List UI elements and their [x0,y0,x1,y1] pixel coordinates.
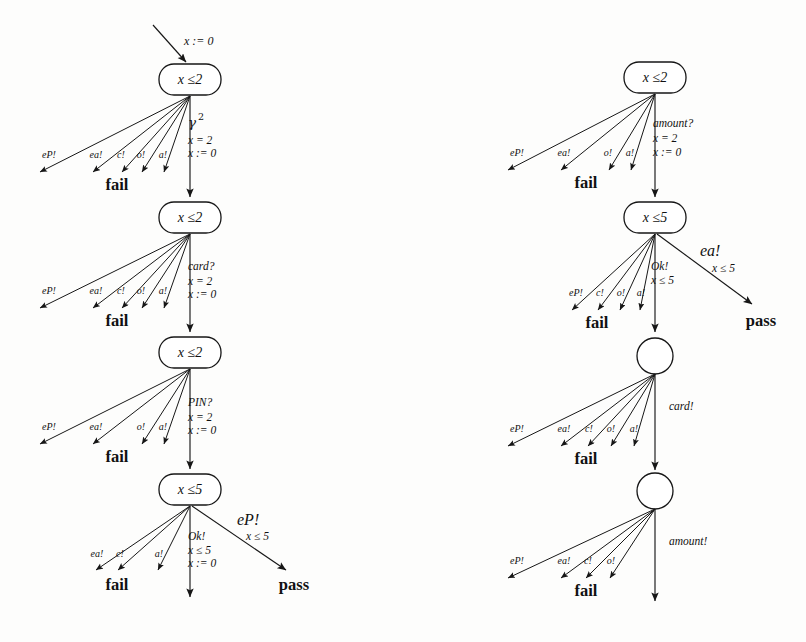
node-R1-label: x ≤2 [642,70,667,85]
fan-edge [122,96,190,172]
terminal-fail: fail [106,311,129,330]
fan-edge [158,506,190,570]
fan-label-a: a! [159,149,167,160]
fan-edge [508,94,655,170]
guard-label: x ≤ 5 [650,274,674,286]
fan-label-eP: eP! [510,423,524,434]
fan-label-eP: eP! [510,555,524,566]
guard-label: x = 2 [652,132,678,144]
terminal-pass: pass [279,575,310,594]
assign-label: x := 0 [187,288,216,300]
fan-label-ea: ea! [558,423,571,434]
fan-label-a: a! [159,285,167,296]
fan-label-ea: ea! [90,149,103,160]
terminal-fail: fail [106,447,129,466]
fan-edge [93,369,190,444]
action-label: card? [188,260,215,272]
terminal-fail: fail [106,575,129,594]
action-label: amount! [669,535,708,547]
fan-label-o: o! [137,149,145,160]
action-label: Ok! [651,260,668,272]
node-L3-label: x ≤2 [177,345,202,360]
automata-diagram: x := 0 x ≤2 eP! ea! c! o! a! fail γ 2 x … [0,0,806,642]
fan-label-a: a! [626,147,634,158]
fan-label-eP: eP! [42,421,56,432]
node-L1-label: x ≤2 [177,72,202,87]
fan-edge [93,96,190,172]
node-L4-label: x ≤5 [177,482,202,497]
fan-edge [96,506,190,570]
terminal-fail: fail [106,175,129,194]
fan-label-o: o! [607,423,615,434]
action-label: card! [669,400,694,412]
fan-label-eP: eP! [42,285,56,296]
terminal-pass: pass [746,311,777,330]
right-test-tree: x ≤2 eP! ea! o! a! fail amount? x = 2 x … [508,62,777,601]
initial-edge-label: x := 0 [183,34,213,48]
fan-edge [631,94,655,170]
assign-label: x := 0 [652,146,681,158]
fan-edge [118,506,190,570]
guard-label: x = 2 [187,275,213,287]
action-label: amount? [653,117,694,129]
fan-label-c: c! [116,548,124,559]
fan-label-o: o! [137,285,145,296]
fan-edge [620,234,655,310]
pass-edge-guard: x ≤ 5 [245,530,269,542]
fan-edge [142,369,190,444]
fan-label-ea: ea! [90,421,103,432]
node-R3[interactable] [637,338,673,374]
fan-edge [142,96,190,172]
fan-label-c: c! [117,149,125,160]
fan-label-c: c! [584,555,592,566]
node-R4[interactable] [637,473,673,509]
fan-label-o: o! [604,147,612,158]
initial-edge [153,25,186,62]
fan-label-o: o! [137,421,145,432]
fan-edge [122,234,190,308]
fan-edge [93,234,190,308]
fan-edge [142,234,190,308]
fan-label-c: c! [585,423,593,434]
guard-label: x = 2 [187,411,213,423]
fan-label-o: o! [617,287,625,298]
terminal-fail: fail [575,449,598,468]
fan-label-ea: ea! [90,285,103,296]
fan-label-c: c! [117,285,125,296]
node-R2-label: x ≤5 [642,210,667,225]
terminal-fail: fail [575,173,598,192]
terminal-fail: fail [575,581,598,600]
fan-label-a: a! [159,421,167,432]
fan-label-eP: eP! [42,149,56,160]
terminal-fail: fail [586,313,609,332]
pass-edge-action: eP! [237,511,259,528]
figure-canvas: x := 0 x ≤2 eP! ea! c! o! a! fail γ 2 x … [0,0,806,642]
fan-label-a: a! [155,548,163,559]
gamma-base-label: γ [188,114,197,130]
assign-label: x := 0 [187,424,216,436]
fan-label-o: o! [607,555,615,566]
fan-label-eP: eP! [569,287,583,298]
guard-label: x = 2 [187,134,213,146]
pass-edge-action: ea! [700,242,720,259]
assign-label: x := 0 [187,557,216,569]
fan-edge [561,509,655,578]
fan-label-ea: ea! [558,147,571,158]
fan-label-ea: ea! [91,548,104,559]
pass-edge-guard: x ≤ 5 [711,262,735,274]
fan-label-eP: eP! [510,147,524,158]
fan-label-a: a! [637,287,645,298]
fan-edge [586,509,655,578]
guard-label: x ≤ 5 [187,544,211,556]
fan-edge [598,234,655,310]
fan-label-ea: ea! [558,555,571,566]
node-L2-label: x ≤2 [177,210,202,225]
fan-label-a: a! [630,423,638,434]
action-label: Ok! [188,530,205,542]
fan-edge [561,94,655,170]
left-test-tree: x := 0 x ≤2 eP! ea! c! o! a! fail γ 2 x … [40,25,310,597]
action-label: PIN? [187,396,213,408]
assign-label: x := 0 [187,147,216,159]
gamma-exponent-label: 2 [198,111,204,122]
fan-label-c: c! [596,287,604,298]
